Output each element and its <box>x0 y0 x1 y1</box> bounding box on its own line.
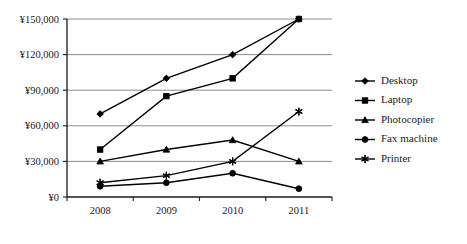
data-point-marker <box>296 186 302 192</box>
legend-item-label: Fax machine <box>381 132 438 144</box>
x-axis-tick-label: 2009 <box>156 205 177 216</box>
data-point-marker <box>164 93 170 99</box>
y-axis-tick-label: ¥0 <box>49 192 60 203</box>
x-axis-tick-label: 2008 <box>90 205 111 216</box>
legend-item-label: Desktop <box>381 74 418 86</box>
y-axis-tick-label: ¥120,000 <box>20 49 59 60</box>
chart-canvas: ¥0¥30,000¥60,000¥90,000¥120,000¥150,000 … <box>0 0 467 244</box>
legend-item-label: Laptop <box>381 93 413 105</box>
y-axis-tick-label: ¥90,000 <box>25 85 59 96</box>
y-axis-tick-label: ¥150,000 <box>20 14 59 25</box>
x-axis-tick-label: 2010 <box>222 205 243 216</box>
data-point-marker <box>296 16 302 22</box>
legend-marker-icon <box>362 137 368 143</box>
legend-marker-icon <box>362 98 368 104</box>
data-point-marker <box>230 76 236 82</box>
legend-item-label: Printer <box>381 152 411 164</box>
data-point-marker <box>163 180 169 186</box>
y-axis-tick-label: ¥60,000 <box>25 120 59 131</box>
y-axis-tick-label: ¥30,000 <box>25 156 59 167</box>
data-point-marker <box>97 147 103 153</box>
x-axis-tick-label: 2011 <box>289 205 310 216</box>
data-point-marker <box>230 170 236 176</box>
legend-item-label: Photocopier <box>381 113 434 125</box>
line-chart: ¥0¥30,000¥60,000¥90,000¥120,000¥150,000 … <box>0 0 467 244</box>
